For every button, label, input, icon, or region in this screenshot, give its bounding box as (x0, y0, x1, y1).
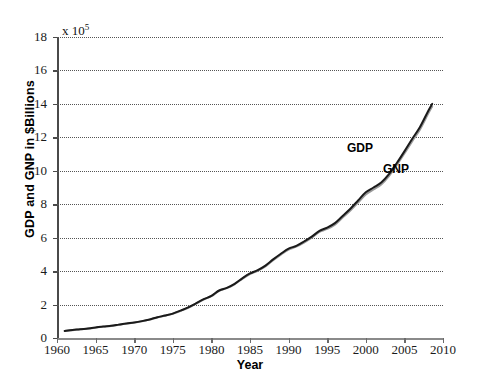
y-tick-label: 2 (17, 297, 47, 313)
series-lines (57, 37, 443, 338)
y-tick-label: 18 (17, 29, 47, 45)
y-tick-label: 6 (17, 230, 47, 246)
y-tick-label: 8 (17, 196, 47, 212)
gnp-series-label: GNP (383, 162, 409, 176)
x-axis-title: Year (57, 358, 443, 372)
y-tick-label: 16 (17, 62, 47, 78)
gdp-gnp-line-chart: x 105 GDP and GNP in $Billions Year 0246… (0, 0, 481, 378)
x-tick-label: 2010 (420, 342, 466, 358)
plot-area (57, 37, 443, 338)
gdp-line (65, 104, 432, 331)
y-axis-multiplier-exponent: 5 (85, 22, 90, 32)
gnp-line (65, 106, 432, 331)
y-tick-label: 4 (17, 263, 47, 279)
y-tick-label: 12 (17, 129, 47, 145)
y-tick-label: 14 (17, 96, 47, 112)
gdp-series-label: GDP (347, 141, 373, 155)
y-tick-label: 10 (17, 163, 47, 179)
